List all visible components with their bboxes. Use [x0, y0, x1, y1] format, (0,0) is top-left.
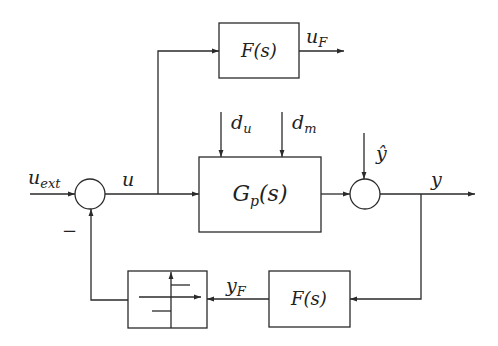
block-filter-bottom-label: F(s) — [290, 288, 327, 309]
minus-sign: − — [62, 220, 77, 241]
block-plant-label: Gp(s) — [232, 181, 287, 209]
label-u-ext: uext — [28, 166, 61, 191]
label-y-f: yF — [225, 274, 247, 299]
summing-junction-1 — [75, 179, 105, 209]
label-d-m: dm — [292, 111, 317, 136]
block-diagram: uext − u F(s) uF du dm Gp(s) ŷ y F(s) yF — [0, 0, 498, 346]
label-u: u — [122, 168, 134, 190]
label-u-f: uF — [306, 25, 328, 50]
block-quantizer — [128, 271, 207, 328]
label-y: y — [430, 168, 442, 190]
label-y-hat: ŷ — [375, 142, 387, 164]
label-d-u: du — [231, 111, 252, 136]
block-filter-top-label: F(s) — [240, 40, 277, 61]
arrow-feedback-to-sum1 — [91, 209, 128, 300]
summing-junction-2 — [350, 179, 380, 209]
arrow-y-to-bottom-filter — [350, 194, 421, 299]
